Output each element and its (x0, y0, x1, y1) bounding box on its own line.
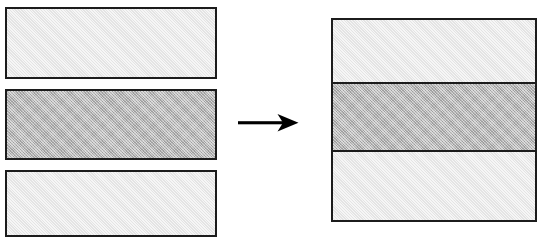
assembled-stack-group (331, 18, 537, 222)
exploded-layer-middle (5, 89, 217, 160)
right-arrow-icon (238, 108, 300, 139)
exploded-layer-bottom (5, 170, 217, 237)
assembled-band-top (333, 20, 535, 84)
diagram-canvas (0, 0, 546, 243)
exploded-layers-group (0, 0, 230, 243)
exploded-layer-top (5, 7, 217, 79)
assembled-band-middle (333, 84, 535, 152)
arrow-group (238, 108, 300, 139)
assembled-band-bottom (333, 152, 535, 220)
